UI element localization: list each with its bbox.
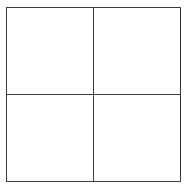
grid-divider-horizontal <box>7 94 180 96</box>
grid-cell-bottom-right[interactable] <box>94 95 181 182</box>
grid-frame <box>6 7 181 182</box>
grid-cell-top-left[interactable] <box>7 8 94 95</box>
grid-cell-top-right[interactable] <box>94 8 181 95</box>
grid-cell-bottom-left[interactable] <box>7 95 94 182</box>
diagram-canvas <box>0 0 190 189</box>
